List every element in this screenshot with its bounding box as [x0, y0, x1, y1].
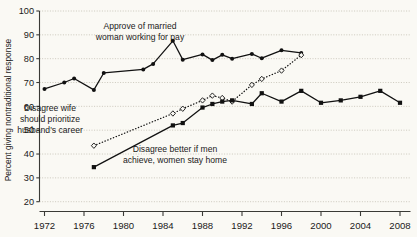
- data-point: [299, 89, 303, 93]
- y-tick-label: 70: [24, 78, 34, 88]
- annotation-line: Disagree better if men: [133, 144, 218, 154]
- x-tick-label: 1972: [34, 220, 55, 231]
- data-point: [141, 67, 145, 71]
- annotation-line: woman working for pay: [95, 32, 185, 42]
- y-tick-label: 30: [24, 173, 34, 183]
- data-point: [358, 95, 362, 99]
- x-tick-label: 1992: [231, 220, 252, 231]
- data-point: [171, 123, 175, 127]
- data-point: [220, 99, 224, 103]
- data-point: [398, 101, 402, 105]
- x-tick-label: 2000: [310, 220, 331, 231]
- data-point: [43, 87, 47, 91]
- data-point: [279, 99, 283, 103]
- data-point: [201, 52, 205, 56]
- x-tick-label: 2008: [389, 220, 410, 231]
- x-tick-label: 2004: [350, 220, 372, 231]
- data-point: [230, 57, 234, 61]
- data-point: [260, 56, 264, 60]
- annotation-achieve: Disagree better if menachieve, women sta…: [123, 144, 227, 165]
- y-tick-label: 40: [24, 149, 34, 159]
- data-point: [181, 121, 185, 125]
- data-point: [339, 98, 343, 102]
- line-chart: 2030405060708090100 19721976198019841988…: [0, 0, 417, 237]
- y-tick-label: 90: [24, 30, 34, 40]
- y-tick-label: 20: [24, 197, 34, 207]
- data-point: [181, 58, 185, 62]
- data-point: [62, 81, 66, 85]
- annotation-line: husband's career: [17, 125, 83, 135]
- chart-container: 2030405060708090100 19721976198019841988…: [0, 0, 417, 237]
- data-point: [200, 105, 204, 109]
- data-point: [210, 102, 214, 106]
- annotation-line: Disagree wife: [24, 103, 76, 113]
- x-tick-label: 1984: [152, 220, 174, 231]
- annotation-prioritize: Disagree wifeshould prioritizehusband's …: [17, 103, 83, 135]
- y-axis-title: Percent giving nontraditional response: [3, 38, 13, 181]
- data-point: [280, 48, 284, 52]
- annotation-line: achieve, women stay home: [123, 155, 227, 165]
- data-point: [250, 102, 254, 106]
- data-point: [250, 52, 254, 56]
- data-point: [92, 88, 96, 92]
- data-point: [378, 89, 382, 93]
- data-point: [72, 76, 76, 80]
- data-point: [92, 165, 96, 169]
- x-tick-label: 1976: [73, 220, 94, 231]
- data-point: [220, 53, 224, 57]
- data-point: [319, 101, 323, 105]
- x-tick-label: 1980: [113, 220, 134, 231]
- data-point: [230, 98, 234, 102]
- y-tick-label: 100: [19, 6, 34, 16]
- data-point: [102, 71, 106, 75]
- annotation-approve: Approve of marriedwoman working for pay: [95, 21, 185, 42]
- x-tick-label: 1988: [192, 220, 213, 231]
- y-tick-label: 80: [24, 54, 34, 64]
- data-point: [210, 58, 214, 62]
- y-axis-label: Percent giving nontraditional response: [3, 38, 13, 181]
- annotation-line: should prioritize: [20, 114, 80, 124]
- annotation-line: Approve of married: [103, 21, 176, 31]
- data-point: [260, 91, 264, 95]
- x-tick-label: 1996: [271, 220, 292, 231]
- data-point: [151, 62, 155, 66]
